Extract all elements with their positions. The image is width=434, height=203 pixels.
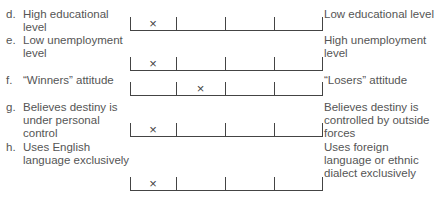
scale-tick bbox=[176, 17, 177, 31]
scale-tick bbox=[176, 123, 177, 137]
scale-tick bbox=[130, 123, 131, 137]
scale-tick bbox=[274, 17, 275, 31]
x-mark-icon: × bbox=[147, 123, 159, 136]
rating-scale: × bbox=[130, 82, 323, 96]
left-anchor-label: Low unemployment level bbox=[23, 34, 133, 60]
scale-tick bbox=[176, 82, 177, 96]
scale-tick bbox=[225, 123, 226, 137]
scale-tick bbox=[225, 177, 226, 191]
x-mark-icon: × bbox=[195, 82, 207, 95]
scale-tick bbox=[130, 57, 131, 71]
item-letter: g. bbox=[6, 101, 16, 114]
scale-tick bbox=[322, 82, 323, 96]
scale-tick bbox=[322, 57, 323, 71]
rating-scale: × bbox=[130, 17, 323, 31]
scale-tick bbox=[176, 177, 177, 191]
scale-tick bbox=[225, 17, 226, 31]
scale-tick bbox=[274, 123, 275, 137]
scale-tick bbox=[274, 177, 275, 191]
scale-tick bbox=[176, 57, 177, 71]
x-mark-icon: × bbox=[147, 57, 159, 70]
scale-baseline bbox=[130, 95, 323, 96]
scale-tick bbox=[274, 82, 275, 96]
scale-tick bbox=[130, 17, 131, 31]
scale-tick bbox=[130, 177, 131, 191]
x-mark-icon: × bbox=[147, 177, 159, 190]
scale-tick bbox=[225, 82, 226, 96]
rating-scale: × bbox=[130, 57, 323, 71]
scale-tick bbox=[322, 123, 323, 137]
right-anchor-label: High unemployment level bbox=[324, 34, 434, 60]
right-anchor-label: “Losers” attitude bbox=[324, 74, 434, 87]
item-letter: d. bbox=[6, 8, 16, 21]
rating-scale: × bbox=[130, 177, 323, 191]
left-anchor-label: Uses English language exclusively bbox=[23, 141, 133, 167]
scale-tick bbox=[322, 17, 323, 31]
x-mark-icon: × bbox=[147, 17, 159, 30]
left-anchor-label: Believes destiny is under personal contr… bbox=[23, 101, 133, 140]
left-anchor-label: High educational level bbox=[23, 8, 133, 34]
item-letter: e. bbox=[6, 34, 16, 47]
item-letter: f. bbox=[6, 74, 12, 87]
item-letter: h. bbox=[6, 141, 16, 154]
right-anchor-label: Low educational level bbox=[324, 8, 434, 21]
scale-tick bbox=[274, 57, 275, 71]
scale-tick bbox=[225, 57, 226, 71]
scale-tick bbox=[322, 177, 323, 191]
right-anchor-label: Uses foreign language or ethnic dialect … bbox=[324, 141, 434, 180]
right-anchor-label: Believes destiny is controlled by outsid… bbox=[324, 101, 434, 140]
rating-scale: × bbox=[130, 123, 323, 137]
left-anchor-label: “Winners” attitude bbox=[23, 74, 133, 87]
scale-tick bbox=[130, 82, 131, 96]
